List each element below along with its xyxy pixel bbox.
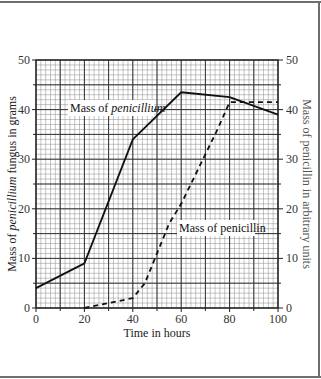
y-left-tick-label: 10 bbox=[18, 251, 30, 265]
x-tick-label: 0 bbox=[33, 312, 39, 326]
series-label-penicillin: Mass of penicillin bbox=[177, 220, 266, 236]
x-tick-label: 60 bbox=[175, 312, 187, 326]
label-text-italic: penicillium bbox=[110, 101, 165, 115]
x-tick-label: 40 bbox=[127, 312, 139, 326]
y-axis-right-title: Mass of penicillin in arbitrary units bbox=[300, 99, 314, 269]
y-left-tick-label: 0 bbox=[24, 301, 30, 315]
svg-text:Mass of penicillium: Mass of penicillium bbox=[70, 101, 166, 115]
major-grid bbox=[36, 60, 278, 308]
x-tick-label: 20 bbox=[78, 312, 90, 326]
y-left-title-part: fungus in grams bbox=[5, 96, 19, 177]
x-tick-label: 80 bbox=[224, 312, 236, 326]
y-right-tick-label: 30 bbox=[286, 152, 298, 166]
y-right-tick-label: 20 bbox=[286, 202, 298, 216]
y-left-tick-label: 20 bbox=[18, 202, 30, 216]
x-tick-label: 100 bbox=[269, 312, 287, 326]
x-axis-title: Time in hours bbox=[124, 326, 191, 340]
y-left-tick-label: 30 bbox=[18, 152, 30, 166]
label-text: Mass of penicillin bbox=[179, 221, 266, 235]
label-text: Mass of bbox=[70, 101, 111, 115]
y-right-tick-label: 40 bbox=[286, 103, 298, 117]
y-right-tick-label: 10 bbox=[286, 251, 298, 265]
penicillin-growth-chart: 0204060801000102030405001020304050 Time … bbox=[0, 0, 321, 379]
y-left-tick-label: 50 bbox=[18, 53, 30, 67]
y-right-tick-label: 50 bbox=[286, 53, 298, 67]
y-axis-left-title: Mass of penicillium fungus in grams bbox=[5, 96, 19, 272]
y-right-tick-label: 0 bbox=[286, 301, 292, 315]
y-left-title-italic: penicillium bbox=[5, 176, 19, 231]
y-left-title-part: Mass of bbox=[5, 230, 19, 271]
series-label-penicillium: Mass of penicillium bbox=[68, 100, 166, 116]
y-left-tick-label: 40 bbox=[18, 103, 30, 117]
